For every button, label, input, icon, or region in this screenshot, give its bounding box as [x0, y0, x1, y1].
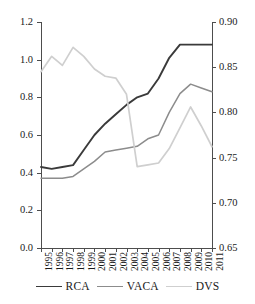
legend-label: DVS — [196, 281, 220, 293]
series-line-rca — [41, 45, 212, 169]
legend-item-rca[interactable]: RCA — [36, 281, 90, 293]
legend-swatch-rca-icon — [36, 286, 62, 287]
legend-item-dvs[interactable]: DVS — [166, 281, 220, 293]
legend-label: VACA — [127, 281, 159, 293]
legend-swatch-vaca-icon — [97, 286, 123, 287]
series-plot — [0, 0, 255, 304]
chart-legend: RCAVACADVS — [0, 281, 255, 293]
legend-label: RCA — [66, 281, 90, 293]
chart-container: 0.00.20.40.60.81.01.2 0.650.700.750.800.… — [0, 0, 255, 304]
legend-swatch-dvs-icon — [166, 286, 192, 287]
legend-item-vaca[interactable]: VACA — [97, 281, 159, 293]
